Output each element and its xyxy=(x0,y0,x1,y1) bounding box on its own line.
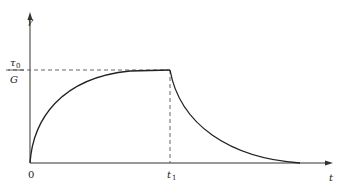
recovery-curve xyxy=(170,70,300,163)
t1-label: t 1 xyxy=(167,169,176,182)
x-axis-arrow-icon xyxy=(325,161,333,166)
y-axis-label: γ xyxy=(27,15,33,26)
svg-text:0: 0 xyxy=(16,62,20,70)
asymptote-level-label: τ 0 G xyxy=(8,57,24,85)
origin-label: 0 xyxy=(28,169,34,180)
svg-text:G: G xyxy=(10,74,18,85)
creep-curve xyxy=(30,70,170,163)
x-axis-label: t xyxy=(329,172,334,183)
creep-recovery-diagram: γ t 0 t 1 τ 0 G xyxy=(0,0,338,189)
svg-text:1: 1 xyxy=(172,174,176,182)
